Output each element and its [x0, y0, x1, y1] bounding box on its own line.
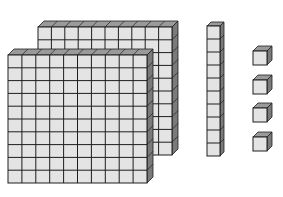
- unit-cube-1: [253, 46, 272, 65]
- hundred-flat-front: [8, 49, 153, 183]
- base-ten-blocks-diagram: [0, 0, 283, 197]
- unit-cube-3: [253, 103, 272, 122]
- ten-rod: [207, 22, 224, 156]
- unit-cube-2: [253, 75, 272, 94]
- unit-cube-4: [253, 132, 272, 151]
